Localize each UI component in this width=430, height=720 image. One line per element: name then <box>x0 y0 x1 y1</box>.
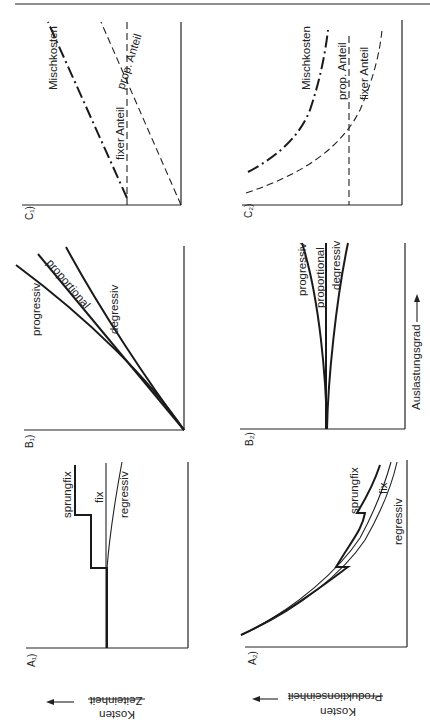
panel-b2: progressiv proportional degressiv B₂) <box>240 241 405 446</box>
b2-label-degressiv: degressiv <box>330 241 342 290</box>
arrow-up-icon <box>414 294 420 302</box>
x-axis-label-group: Auslastungsgrad <box>410 294 422 410</box>
c2-label-prop-anteil: prop. Anteil <box>336 42 348 100</box>
a2-fix-curve <box>241 462 391 635</box>
b1-degressiv-line <box>66 247 184 430</box>
a2-label-fix: fix <box>377 482 389 494</box>
b1-label-proportional: proportional <box>44 257 92 311</box>
a1-y-label-bottom: Zeiteinheit <box>89 695 143 707</box>
panel-a2: sprungfix fix regressiv A₂) <box>241 460 407 665</box>
panel-c1: Mischkosten fixer Anteil prop. Anteil C₁… <box>22 22 181 220</box>
a2-regressiv-curve <box>241 462 397 635</box>
a1-tag: A₁) <box>26 654 37 667</box>
a2-y-label-top: Kosten <box>320 706 356 718</box>
a1-label-fix: fix <box>93 491 105 503</box>
c1-label-mischkosten: Mischkosten <box>47 26 59 90</box>
panel-a1: sprungfix fix regressiv A₁) <box>26 462 188 667</box>
b2-tag: B₂) <box>244 432 255 446</box>
b2-label-progressiv: progressiv <box>296 243 308 296</box>
b1-label-degressiv: degressiv <box>108 285 120 334</box>
c1-label-fixer-anteil: fixer Anteil <box>114 107 126 160</box>
x-axis-label: Auslastungsgrad <box>410 324 422 410</box>
arrow-left-icon <box>252 696 260 702</box>
a1-y-label-top: Kosten <box>99 709 135 720</box>
a2-tag: A₂) <box>247 651 258 665</box>
a1-label-regressiv: regressiv <box>118 471 130 518</box>
c2-mischkosten-curve <box>248 30 328 172</box>
c1-prop-anteil-line <box>101 22 181 205</box>
cost-curves-figure: Mischkosten fixer Anteil prop. Anteil C₁… <box>0 0 430 720</box>
a2-label-regressiv: regressiv <box>392 498 404 545</box>
arrow-left-icon <box>46 699 54 705</box>
a1-label-sprungfix: sprungfix <box>61 471 73 518</box>
b1-tag: B₁) <box>24 435 35 448</box>
b1-label-progressiv: progressiv <box>30 283 42 336</box>
c2-label-mischkosten: Mischkosten <box>300 26 312 90</box>
c2-tag: C₂) <box>243 204 254 218</box>
b2-label-proportional: proportional <box>314 247 326 308</box>
a1-y-axis-label-group: Zeiteinheit Kosten <box>46 695 145 720</box>
panel-c2: Mischkosten prop. Anteil fixer Anteil C₂… <box>242 20 402 218</box>
c1-label-prop-anteil: prop. Anteil <box>114 32 143 90</box>
a2-label-sprungfix: sprungfix <box>348 467 360 514</box>
a2-y-label-bottom: Produktionseinheit <box>287 691 382 703</box>
panel-b1: progressiv proportional degressiv B₁) <box>16 246 184 448</box>
c1-tag: C₁) <box>24 206 35 220</box>
a2-y-axis-label-group: Produktionseinheit Kosten <box>252 691 383 718</box>
c2-label-fixer-anteil: fixer Anteil <box>358 47 370 100</box>
